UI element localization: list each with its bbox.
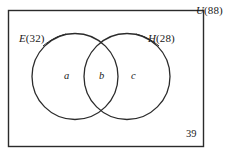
region-label-c: c bbox=[131, 71, 136, 82]
set-e-label: E(32) bbox=[19, 33, 45, 44]
outside-region-count: 39 bbox=[186, 129, 197, 140]
universal-set-label: U(88) bbox=[196, 5, 223, 16]
universal-set-rectangle bbox=[9, 11, 204, 147]
set-e-circle bbox=[32, 34, 118, 120]
universal-set-symbol: U bbox=[196, 4, 204, 16]
venn-diagram-graphics bbox=[0, 0, 235, 153]
set-h-symbol: H bbox=[148, 32, 156, 44]
region-label-a: a bbox=[64, 71, 69, 82]
set-e-symbol: E bbox=[19, 32, 26, 44]
venn-diagram-figure: U(88) E(32) H(28) a b c 39 bbox=[0, 0, 235, 153]
set-e-count: (32) bbox=[26, 32, 45, 44]
set-h-label: H(28) bbox=[148, 33, 175, 44]
universal-set-count: (88) bbox=[204, 4, 223, 16]
set-h-circle bbox=[84, 34, 170, 120]
set-h-count: (28) bbox=[156, 32, 175, 44]
region-label-b: b bbox=[99, 71, 104, 82]
